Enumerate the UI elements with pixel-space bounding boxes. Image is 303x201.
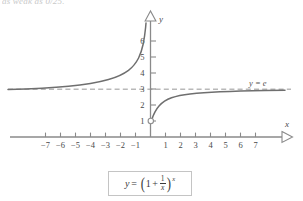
- x-tick-label: −1: [131, 140, 140, 150]
- x-axis-ticks-positive: [166, 133, 256, 137]
- formula-lhs: y: [125, 179, 129, 189]
- open-point-marker-at-0-1: [148, 118, 153, 123]
- figure-root: as weak as 0/25.: [0, 0, 303, 201]
- y-tick-label: 3: [140, 84, 144, 94]
- x-tick-label: −2: [116, 140, 125, 150]
- x-tick-label: 2: [178, 140, 182, 150]
- y-axis-tick-labels: 1 2 3 4 5 6: [140, 36, 145, 126]
- x-tick-label: 6: [238, 140, 242, 150]
- asymptote-label: y = e: [248, 78, 267, 88]
- y-axis-arrowhead: [145, 11, 156, 21]
- formula-expression: y = ( 1 + 1 x ) x: [125, 175, 175, 192]
- x-tick-label: 5: [223, 140, 227, 150]
- formula-caption-box: y = ( 1 + 1 x ) x: [108, 171, 192, 196]
- curve-right-branch: [152, 90, 285, 120]
- formula-one: 1: [146, 179, 151, 189]
- curve-left-branch: [8, 23, 146, 90]
- x-tick-label: −7: [41, 140, 50, 150]
- formula-fraction-numerator: 1: [160, 175, 166, 183]
- formula-equals: =: [131, 179, 137, 189]
- y-tick-label: 1: [140, 116, 144, 126]
- y-axis-ticks: [151, 41, 157, 121]
- x-axis-ticks-negative: [46, 133, 136, 137]
- y-tick-label: 4: [140, 68, 145, 78]
- x-tick-label: 1: [163, 140, 167, 150]
- x-tick-label: −5: [71, 140, 80, 150]
- x-tick-label: −4: [86, 140, 96, 150]
- x-tick-label: 7: [253, 140, 257, 150]
- formula-fraction-denominator: x: [160, 184, 165, 192]
- formula-exponent: x: [172, 176, 175, 183]
- formula-fraction: 1 x: [160, 175, 166, 192]
- x-axis-arrowhead: [282, 132, 293, 143]
- x-tick-label: 3: [193, 140, 197, 150]
- x-tick-label: −6: [56, 140, 65, 150]
- y-tick-label: 2: [140, 100, 144, 110]
- x-axis-name-label: x: [284, 119, 289, 129]
- formula-open-paren: (: [141, 177, 145, 191]
- formula-plus: +: [152, 179, 158, 189]
- x-axis-tick-labels: −7 −6 −5 −4 −3 −2 −1 1 2 3 4 5 6 7: [41, 140, 258, 150]
- formula-close-paren: ): [167, 177, 171, 191]
- y-axis-name-label: y: [158, 14, 163, 24]
- x-tick-label: 4: [208, 140, 213, 150]
- x-tick-label: −3: [101, 140, 110, 150]
